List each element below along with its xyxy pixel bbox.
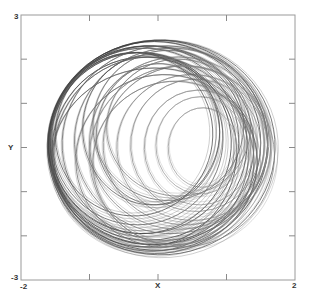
phase-plot [0, 0, 309, 300]
y-min-label: -3 [11, 274, 18, 282]
y-axis-label: Y [8, 144, 13, 152]
x-axis-label: X [155, 282, 160, 290]
x-min-label: -2 [20, 283, 27, 291]
y-max-label: 3 [14, 13, 18, 21]
trajectory-loops [39, 32, 285, 265]
x-max-label: 2 [292, 282, 296, 290]
trajectory-loop [167, 107, 238, 189]
